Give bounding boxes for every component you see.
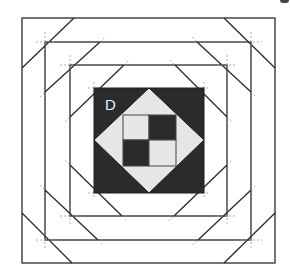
block-label: D — [105, 96, 116, 113]
four-patch-top-right — [149, 115, 176, 140]
four-patch-top-left — [123, 115, 149, 140]
quilt-block-diagram — [0, 0, 290, 271]
four-patch-bottom-right — [149, 140, 176, 166]
four-patch-bottom-left — [123, 140, 149, 166]
four-patch — [123, 115, 176, 166]
